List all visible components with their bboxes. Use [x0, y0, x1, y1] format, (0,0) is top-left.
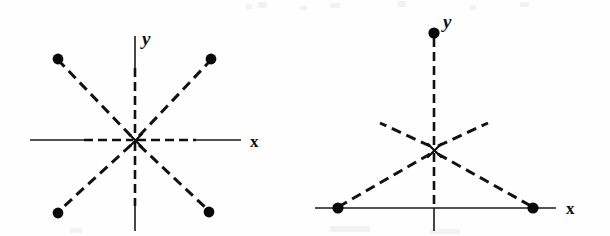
- point-upper-right: [206, 54, 217, 65]
- point-lower-left: [53, 208, 64, 219]
- ray-down-left-to-point: [340, 154, 430, 206]
- ray-up-right-short: [438, 123, 488, 146]
- point-top-on-y-axis: [428, 27, 439, 38]
- left-x-axis-label: x: [250, 132, 259, 151]
- figure-page: y x: [0, 0, 610, 236]
- diagram-canvas: y x: [0, 0, 610, 236]
- left-figure: y x: [30, 28, 259, 231]
- scan-artifacts: [70, 1, 529, 234]
- right-figure: y x: [315, 11, 575, 231]
- ray-upper-right: [139, 62, 209, 136]
- ray-down-right-to-point: [438, 154, 531, 206]
- right-rays: [340, 123, 531, 206]
- right-y-axis-label: y: [441, 11, 452, 32]
- ray-upper-left: [60, 62, 131, 136]
- right-x-axis-label: x: [566, 199, 575, 218]
- ray-up-left-short: [380, 123, 430, 146]
- left-y-axis-label: y: [140, 28, 151, 49]
- point-left-on-x-axis: [332, 202, 343, 213]
- ray-lower-left: [60, 145, 131, 210]
- point-lower-right: [204, 207, 215, 218]
- ray-lower-right: [139, 145, 207, 209]
- point-upper-left: [53, 54, 64, 65]
- point-right-on-x-axis: [527, 202, 538, 213]
